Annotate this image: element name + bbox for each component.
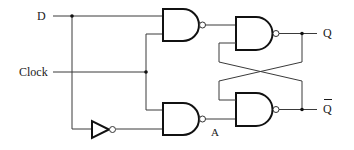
d-junction-dot bbox=[70, 14, 74, 18]
nand-gate-2-body bbox=[163, 103, 199, 135]
q-bar-overline bbox=[324, 99, 332, 100]
nand-gate-2 bbox=[163, 103, 206, 135]
node-a-label: A bbox=[211, 126, 219, 138]
q-bar-junction-dot bbox=[300, 108, 304, 112]
clock-label: Clock bbox=[19, 66, 48, 78]
nand-gate-3-body bbox=[236, 17, 273, 50]
nand-gate-4 bbox=[236, 93, 279, 126]
nand-gate-1-body bbox=[163, 9, 199, 41]
nand-gate-3-bubble bbox=[273, 31, 279, 37]
q-label: Q bbox=[323, 27, 332, 39]
not-gate-body bbox=[92, 121, 109, 138]
nand-gate-4-bubble bbox=[273, 107, 279, 113]
nand-gate-1 bbox=[163, 9, 206, 41]
q-junction-dot bbox=[300, 32, 304, 36]
not-gate bbox=[92, 121, 116, 138]
q-bar-label: Q bbox=[323, 103, 332, 115]
d-latch-circuit bbox=[0, 0, 354, 150]
clock-branch-wire bbox=[146, 34, 163, 110]
clock-junction-dot bbox=[144, 70, 148, 74]
input-wires bbox=[53, 14, 163, 129]
not-gate-bubble bbox=[110, 127, 116, 133]
d-label: D bbox=[37, 10, 46, 22]
nand-gate-4-body bbox=[236, 93, 273, 126]
nand-gate-1-bubble bbox=[200, 22, 206, 28]
nand-gate-3 bbox=[236, 17, 279, 50]
nand-gate-2-bubble bbox=[200, 116, 206, 122]
